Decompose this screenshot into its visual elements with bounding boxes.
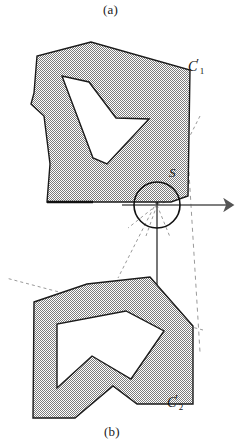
figure-container: (a) (b) C′1 C′2 S <box>0 0 240 447</box>
caption-b: (b) <box>104 424 120 440</box>
ray-down-right <box>157 205 170 237</box>
label-c2-subscript: 2 <box>179 402 184 412</box>
label-c2-prime-mark: ′ <box>175 391 178 406</box>
label-circle-s: S <box>169 165 176 181</box>
label-c1-subscript: 1 <box>200 66 205 76</box>
label-curve-c2-prime: C′2 <box>167 391 183 412</box>
label-c1-prime-mark: ′ <box>196 55 199 70</box>
polygon-upper-c1-prime <box>31 42 190 202</box>
caption-a: (a) <box>103 2 118 18</box>
label-curve-c1-prime: C′1 <box>188 55 204 76</box>
upper-shape-fill <box>31 42 190 202</box>
